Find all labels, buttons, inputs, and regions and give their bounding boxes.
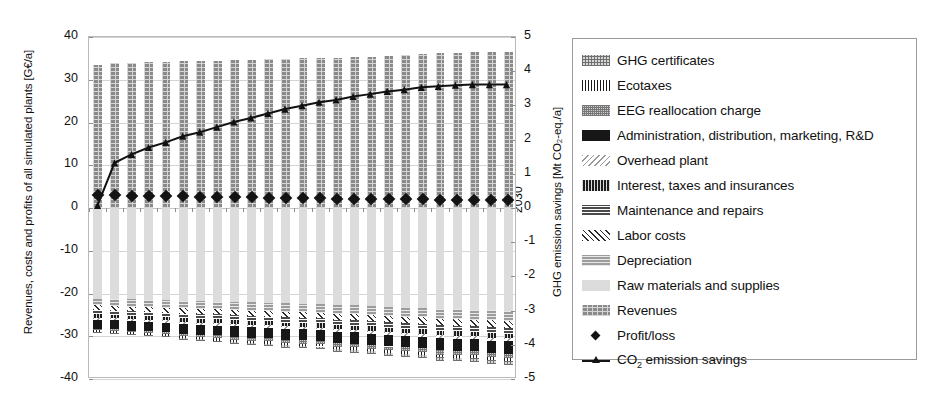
- y-tick-label-right: 5: [524, 29, 554, 42]
- legend-item-label: Overhead plant: [617, 153, 708, 168]
- y-tickmark-right: [511, 345, 515, 346]
- profit-loss-marker: [451, 194, 464, 207]
- legend-swatch-icon: [582, 255, 610, 266]
- chart-figure: Revenues, costs and profits of all simul…: [0, 0, 935, 397]
- x-tickmark: [449, 208, 450, 212]
- legend-item[interactable]: Interest, taxes and insurances: [573, 173, 916, 198]
- x-tickmark: [466, 208, 467, 212]
- x-tickmark: [363, 208, 364, 212]
- legend-item[interactable]: Administration, distribution, marketing,…: [573, 123, 916, 148]
- y-tickmark-right: [511, 311, 515, 312]
- x-tickmark: [226, 208, 227, 212]
- legend-item[interactable]: GHG certificates: [573, 48, 916, 73]
- legend-item-label: Ecotaxes: [617, 78, 672, 93]
- x-tickmark: [397, 208, 398, 212]
- legend-item-label: Profit/loss: [617, 328, 675, 343]
- y-tick-label-left: 30: [36, 72, 78, 85]
- y-tick-label-left: 10: [36, 157, 78, 170]
- legend-item[interactable]: CO2 emission savings: [573, 348, 916, 373]
- x-tickmark: [329, 208, 330, 212]
- y-tick-label-right: 3: [524, 97, 554, 110]
- y-tick-label-right: 0: [524, 200, 554, 213]
- y-tick-label-left: -10: [36, 243, 78, 256]
- x-tickmark: [294, 208, 295, 212]
- y-tick-label-right: -3: [524, 303, 554, 316]
- profit-loss-marker: [399, 193, 412, 206]
- legend-line-marker-icon: [582, 355, 610, 366]
- legend-item-label: Interest, taxes and insurances: [617, 178, 794, 193]
- legend-item[interactable]: Overhead plant: [573, 148, 916, 173]
- legend-item[interactable]: Raw materials and supplies: [573, 273, 916, 298]
- y-axis-title-left: Revenues, costs and profits of all simul…: [22, 27, 34, 357]
- legend-item[interactable]: Revenues: [573, 298, 916, 323]
- legend-item[interactable]: Labor costs: [573, 223, 916, 248]
- profit-loss-marker: [280, 191, 293, 204]
- y-tick-label-left: -30: [36, 328, 78, 341]
- legend-swatch-icon: [582, 205, 610, 216]
- profit-loss-marker: [434, 194, 447, 207]
- legend-item-label: Labor costs: [617, 228, 686, 243]
- x-tickmark: [380, 208, 381, 212]
- y-tick-label-left: -40: [36, 371, 78, 384]
- profit-loss-marker: [468, 194, 481, 207]
- y-tickmark-left: [89, 123, 93, 124]
- profit-loss-marker: [91, 189, 104, 202]
- y-tickmark-left: [89, 37, 93, 38]
- profit-loss-marker: [143, 190, 156, 203]
- profit-loss-marker: [262, 191, 275, 204]
- legend-swatch-icon: [582, 155, 610, 166]
- x-tickmark: [123, 208, 124, 212]
- legend-swatch-icon: [582, 180, 610, 191]
- x-tickmark: [346, 208, 347, 212]
- y-tick-label-right: -5: [524, 371, 554, 384]
- profit-loss-marker: [297, 192, 310, 205]
- y-tick-label-left: 40: [36, 29, 78, 42]
- legend-item-label: GHG certificates: [617, 53, 714, 68]
- profit-loss-marker: [502, 194, 515, 207]
- x-tickmark: [414, 208, 415, 212]
- y-tick-label-right: 4: [524, 63, 554, 76]
- x-tickmark: [431, 208, 432, 212]
- gridline: [89, 379, 515, 380]
- y-tickmark-left: [89, 294, 93, 295]
- legend-item[interactable]: EEG reallocation charge: [573, 98, 916, 123]
- profit-loss-marker: [194, 191, 207, 204]
- legend-item[interactable]: Maintenance and repairs: [573, 198, 916, 223]
- legend-item[interactable]: Depreciation: [573, 248, 916, 273]
- y-tick-label-left: 20: [36, 115, 78, 128]
- legend-item-label: Revenues: [617, 303, 677, 318]
- x-tickmark: [106, 208, 107, 212]
- legend-swatch-icon: [582, 305, 610, 316]
- legend-item-label: CO2 emission savings: [617, 352, 747, 370]
- profit-loss-marker: [382, 193, 395, 206]
- legend-item[interactable]: Profit/loss: [573, 323, 916, 348]
- profit-loss-marker: [125, 189, 138, 202]
- profit-loss-markers: [89, 37, 515, 377]
- y-tick-label-right: -1: [524, 234, 554, 247]
- profit-loss-marker: [228, 191, 241, 204]
- y-tickmark-left: [89, 379, 93, 380]
- x-tickmark: [243, 208, 244, 212]
- profit-loss-marker: [365, 193, 378, 206]
- legend-item[interactable]: Ecotaxes: [573, 73, 916, 98]
- profit-loss-marker: [485, 194, 498, 207]
- legend-item-label: Administration, distribution, marketing,…: [617, 128, 874, 143]
- legend-item-label: Raw materials and supplies: [617, 278, 779, 293]
- y-tickmark-right: [511, 174, 515, 175]
- y-tickmark-left: [89, 165, 93, 166]
- y-tickmark-right: [511, 276, 515, 277]
- profit-loss-marker: [416, 193, 429, 206]
- y-tick-label-left: 0: [36, 200, 78, 213]
- y-tickmark-right: [511, 208, 515, 209]
- chart-legend: GHG certificatesEcotaxesEEG reallocation…: [572, 38, 917, 360]
- legend-swatch-icon: [582, 280, 610, 291]
- y-tickmark-right: [511, 242, 515, 243]
- y-tickmark-right: [511, 379, 515, 380]
- x-tickmark: [157, 208, 158, 212]
- legend-swatch-icon: [582, 55, 610, 66]
- profit-loss-marker: [314, 192, 327, 205]
- profit-loss-marker: [331, 192, 344, 205]
- profit-loss-marker: [348, 192, 361, 205]
- y-tickmark-right: [511, 105, 515, 106]
- profit-loss-marker: [160, 190, 173, 203]
